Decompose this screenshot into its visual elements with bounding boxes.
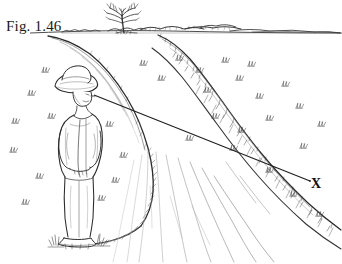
scene-drawing [0, 0, 342, 264]
figure-illustration: Fig. 1.46 X [0, 0, 342, 264]
boots [58, 238, 96, 247]
point-label-x: X [311, 176, 321, 192]
figure-caption: Fig. 1.46 [6, 18, 62, 35]
drawing-background [0, 0, 342, 264]
